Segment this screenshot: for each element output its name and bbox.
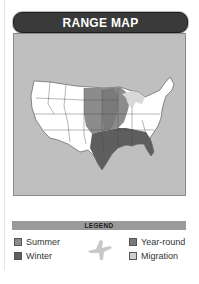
legend-heading: LEGEND xyxy=(85,222,114,229)
legend-label-summer: Summer xyxy=(26,237,60,247)
page-edge-rule xyxy=(4,0,5,270)
winter-swatch xyxy=(14,252,22,260)
migration-swatch xyxy=(129,252,137,260)
map-title: RANGE MAP xyxy=(62,16,138,30)
legend-item-summer: Summer xyxy=(14,237,60,247)
legend-label-migration: Migration xyxy=(141,251,178,261)
yearround-swatch xyxy=(129,238,137,246)
summer-swatch xyxy=(14,238,22,246)
legend-label-yearround: Year-round xyxy=(141,237,185,247)
us-range-map xyxy=(14,34,185,195)
map-panel xyxy=(13,33,186,196)
legend-header: LEGEND xyxy=(12,221,186,230)
title-banner: RANGE MAP xyxy=(13,12,188,33)
legend-item-winter: Winter xyxy=(14,251,52,261)
winter-range xyxy=(90,128,154,170)
legend-label-winter: Winter xyxy=(26,251,52,261)
legend-item-migration: Migration xyxy=(129,251,178,261)
range-map-card: RANGE MAP xyxy=(0,0,199,284)
bird-silhouette-icon xyxy=(86,236,114,262)
legend-item-yearround: Year-round xyxy=(129,237,185,247)
